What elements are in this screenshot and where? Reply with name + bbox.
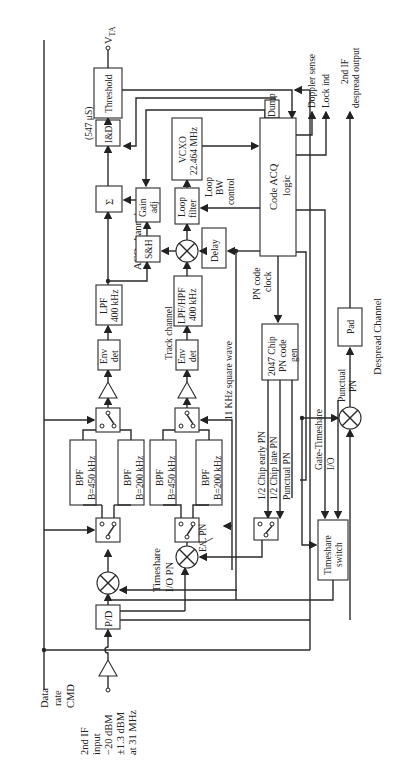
svg-text:BPF: BPF [201, 469, 211, 486]
el-pn-label: E/L PN [198, 523, 208, 552]
svg-text:input: input [91, 733, 102, 755]
svg-text:Env: Env [177, 348, 187, 364]
receiver-block-diagram: Data rate CMD 2nd IF input −20 dBM ±1.3 … [0, 0, 397, 760]
acq-amplifier-icon [99, 382, 117, 398]
svg-text:BPF: BPF [123, 469, 133, 486]
svg-text:B=450 kHz: B=450 kHz [87, 456, 97, 500]
svg-text:at 31 MHz: at 31 MHz [127, 710, 138, 755]
lock-ind-label: Lock ind [321, 74, 331, 108]
despread-channel-label: Despread Channel [372, 298, 383, 375]
acq-mixer-icon [97, 572, 119, 594]
punctual-pn-label: Punctual PN [282, 452, 292, 500]
svg-text:BW: BW [215, 180, 225, 195]
svg-text:Dump: Dump [267, 93, 277, 117]
svg-text:Punctual: Punctual [337, 368, 347, 402]
svg-text:22.464 MHz: 22.464 MHz [189, 127, 199, 175]
svg-text:Data: Data [39, 688, 50, 708]
svg-text:LPF: LPF [99, 298, 109, 314]
svg-text:B=200 kHz: B=200 kHz [135, 456, 145, 500]
svg-text:det: det [188, 350, 198, 362]
svg-text:±1.3 dBM: ±1.3 dBM [115, 711, 126, 755]
svg-text:Threshold: Threshold [104, 74, 114, 113]
svg-text:B=200 kHz: B=200 kHz [213, 456, 223, 500]
svg-text:I/O PN: I/O PN [164, 562, 175, 592]
vta-output-label: VTA [103, 26, 117, 44]
svg-text:Pad: Pad [346, 320, 356, 335]
trk-mixer-icon [176, 546, 198, 568]
svg-text:Loop: Loop [177, 197, 187, 217]
timeshare-io-pn-label: Timeshare I/O PN [151, 548, 175, 592]
svg-text:logic: logic [281, 175, 292, 196]
loop-mixer-icon [176, 240, 198, 262]
track-channel-label: Track channel [164, 306, 174, 360]
punctual-pn-despread-label: Punctual PN [337, 368, 358, 402]
svg-text:det: det [110, 350, 120, 362]
svg-text:Code ACQ: Code ACQ [268, 163, 279, 210]
square-wave-label: 11 KHz square wave [224, 341, 234, 420]
svg-text:2nd IF: 2nd IF [340, 59, 350, 84]
svg-text:2nd IF: 2nd IF [79, 727, 90, 755]
svg-text:400 kHz: 400 kHz [188, 289, 198, 321]
doppler-sense-label: Doppler sense [307, 54, 317, 108]
svg-text:Gain: Gain [138, 198, 148, 217]
svg-text:Env: Env [99, 348, 109, 364]
svg-text:gen: gen [289, 348, 299, 362]
pn-code-clock-label: PN code clock [252, 268, 273, 300]
svg-text:PN code: PN code [278, 340, 288, 372]
svg-text:filter: filter [188, 199, 198, 218]
svg-text:Timeshare: Timeshare [151, 548, 162, 592]
svg-text:−20 dBM: −20 dBM [103, 714, 114, 755]
svg-text:I&D: I&D [104, 125, 114, 143]
svg-text:control: control [226, 178, 236, 205]
trk-amplifier-icon [178, 382, 196, 398]
svg-text:clock: clock [263, 271, 273, 292]
svg-text:S&H: S&H [144, 239, 154, 259]
late-pn-label: 1/2 Chip late PN [269, 436, 279, 500]
svg-text:VTA: VTA [103, 26, 117, 44]
svg-text:adj: adj [149, 201, 159, 213]
svg-text:despread output: despread output [351, 47, 361, 108]
svg-text:I/O: I/O [326, 457, 336, 470]
pd-label: P/D [103, 610, 114, 627]
svg-text:Delay: Delay [210, 239, 220, 262]
svg-text:Σ: Σ [104, 199, 115, 205]
svg-text:BPF: BPF [155, 469, 165, 486]
input-amplifier-icon [99, 660, 117, 676]
despread-output-label: 2nd IF despread output [340, 47, 361, 108]
if-input-label: 2nd IF input −20 dBM ±1.3 dBM at 31 MHz [79, 710, 138, 755]
early-pn-label: 1/2 Chip early PN [257, 431, 267, 500]
svg-text:LPF/HPF: LPF/HPF [177, 288, 187, 324]
svg-text:CMD: CMD [65, 684, 76, 708]
svg-text:VCXO: VCXO [178, 136, 188, 163]
svg-text:400 kHz: 400 kHz [110, 290, 120, 322]
svg-text:Timeshare: Timeshare [323, 535, 333, 575]
svg-text:switch: switch [334, 542, 344, 567]
svg-text:Loop: Loop [204, 177, 214, 197]
loop-bw-control-label: Loop BW control [204, 177, 236, 205]
svg-text:2047 Chip: 2047 Chip [267, 336, 277, 376]
svg-text:BPF: BPF [75, 469, 85, 486]
svg-text:rate: rate [52, 690, 63, 706]
despread-mixer-icon [339, 407, 361, 429]
ind-time-label: (547 μS) [84, 107, 95, 140]
svg-text:PN code: PN code [252, 268, 262, 300]
svg-text:B=450 kHz: B=450 kHz [167, 456, 177, 500]
svg-text:Gate-Timeshare: Gate-Timeshare [314, 409, 324, 470]
